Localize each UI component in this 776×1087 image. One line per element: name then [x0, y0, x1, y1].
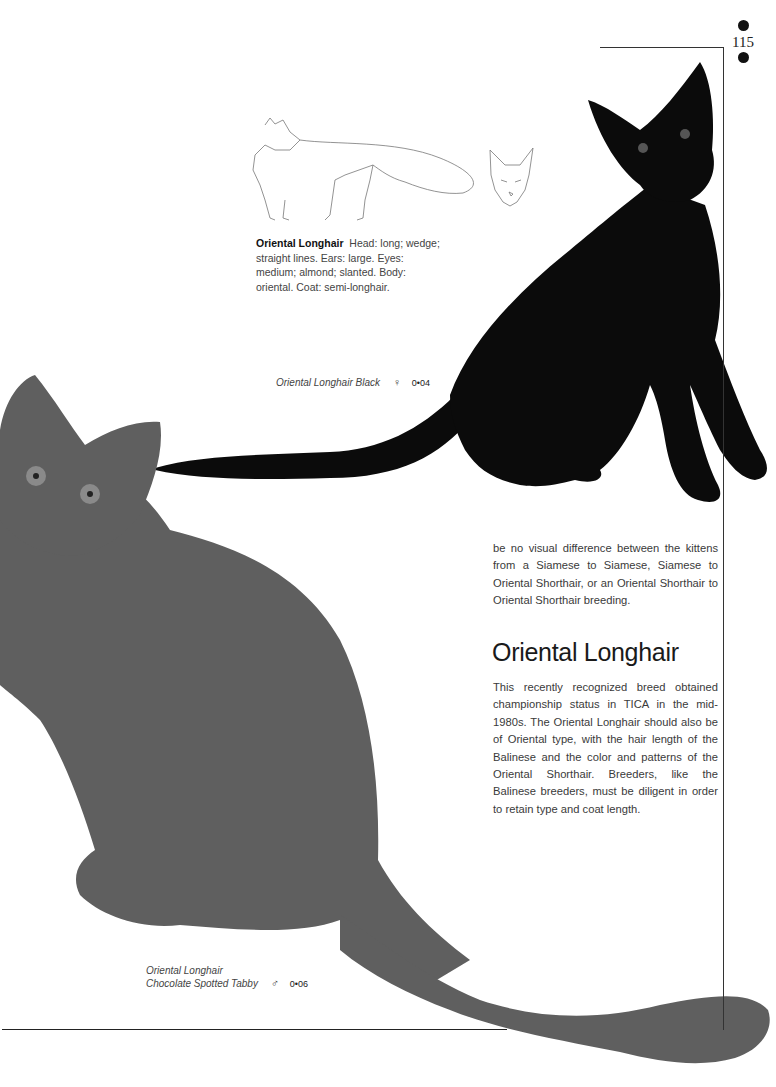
male-symbol-icon: ♂: [271, 977, 279, 989]
page-rule-bottom: [2, 1029, 507, 1030]
breed-summary-title: Oriental Longhair: [256, 237, 344, 249]
caption-code: 0•06: [290, 979, 308, 989]
page-rule-vertical: [723, 47, 724, 1030]
caption-title: Oriental Longhair Black: [276, 377, 380, 388]
folio-dot-top-icon: [738, 20, 749, 31]
photo-caption-black: Oriental Longhair Black ♀ 0•04: [276, 376, 430, 390]
caption-title-line1: Oriental Longhair: [146, 964, 308, 977]
folio-dot-bottom-icon: [738, 52, 749, 63]
breed-line-drawing: [245, 110, 555, 225]
photo-caption-tabby: Oriental Longhair Chocolate Spotted Tabb…: [146, 964, 308, 991]
caption-title-line2: Chocolate Spotted Tabby: [146, 978, 258, 989]
black-cat-eyes: [638, 129, 690, 153]
caption-code: 0•04: [412, 378, 430, 388]
page-folio: 115: [729, 20, 757, 63]
breed-summary: Oriental Longhair Head: long; wedge; str…: [256, 236, 444, 294]
head-front-sketch-icon: [490, 148, 533, 206]
article-paragraph-continued: be no visual difference between the kitt…: [493, 540, 718, 610]
tabby-cat-eyes: [26, 466, 100, 504]
page-number: 115: [729, 33, 757, 51]
body-profile-sketch-icon: [253, 118, 473, 220]
section-heading: Oriental Longhair: [492, 638, 679, 667]
page-rule-top: [600, 47, 724, 48]
female-symbol-icon: ♀: [393, 376, 401, 388]
article-paragraph: This recently recognized breed obtained …: [493, 679, 718, 818]
